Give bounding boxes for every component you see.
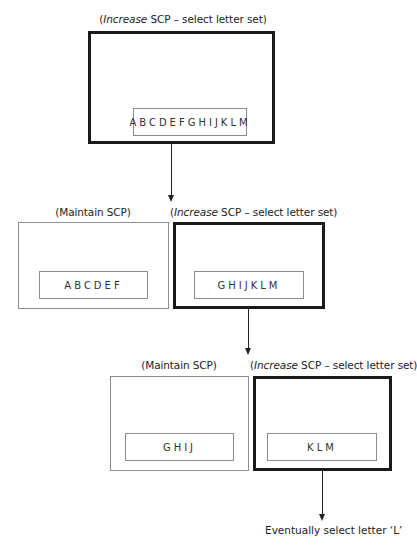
caption-emphasis: Increase <box>254 359 298 371</box>
level1-letter-set[interactable]: ABCDEFGHIJKLM <box>133 108 247 136</box>
level2-left-letter-set[interactable]: ABCDEF <box>39 271 148 299</box>
caption-emphasis: Increase <box>103 13 147 25</box>
final-selection-note: Eventually select letter ‘L’ <box>265 524 402 536</box>
connector-line-2 <box>248 309 249 349</box>
level2-right-caption: (Increase SCP – select letter set) <box>170 206 330 218</box>
level1-caption: (Increase SCP – select letter set) <box>98 13 268 25</box>
caption-rest: SCP – select letter set) <box>298 359 417 371</box>
level3-right-caption: (Increase SCP – select letter set) <box>250 359 396 371</box>
caption-rest: SCP – select letter set) <box>147 13 267 25</box>
level2-right-letter-set[interactable]: GHIJKLM <box>194 271 304 299</box>
level2-left-caption: (Maintain SCP) <box>18 206 168 218</box>
level3-left-letter-set[interactable]: GHIJ <box>125 433 234 461</box>
caption-rest: SCP – select letter set) <box>218 206 338 218</box>
arrowhead-icon <box>168 195 174 202</box>
connector-line-3 <box>322 471 323 518</box>
arrowhead-icon <box>319 514 325 521</box>
level3-left-caption: (Maintain SCP) <box>110 359 248 371</box>
caption-emphasis: Increase <box>174 206 218 218</box>
connector-line-1 <box>171 144 172 196</box>
level3-right-letter-set[interactable]: KLM <box>267 433 377 461</box>
arrowhead-icon <box>245 348 251 355</box>
